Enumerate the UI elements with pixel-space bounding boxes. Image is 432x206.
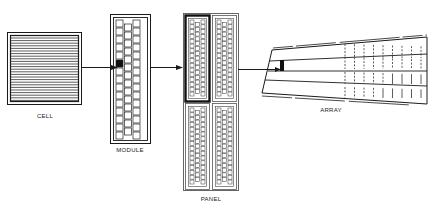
panel-shape [184,14,239,191]
module-label: MODULE [116,147,143,153]
cell-shape [8,33,82,105]
panel-label: PANEL [201,196,222,202]
arrow-cell-to-module [82,65,118,70]
pv-hierarchy-diagram [0,0,432,206]
arrow-module-to-panel [150,65,183,70]
module-shape [111,15,151,144]
array-shape [262,35,427,106]
cell-label: CELL [37,113,53,119]
array-label: ARRAY [320,107,342,113]
